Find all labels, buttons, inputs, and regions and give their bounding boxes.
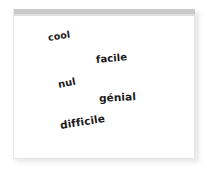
word-facile[interactable]: facile bbox=[96, 51, 128, 65]
word-difficile[interactable]: difficile bbox=[59, 112, 106, 131]
screenshot-root: cool facile nul génial difficile bbox=[0, 0, 207, 177]
word-cloud-canvas: cool facile nul génial difficile bbox=[14, 16, 194, 158]
word-nul[interactable]: nul bbox=[57, 76, 77, 90]
word-cool[interactable]: cool bbox=[47, 29, 71, 43]
word-genial[interactable]: génial bbox=[99, 90, 137, 104]
